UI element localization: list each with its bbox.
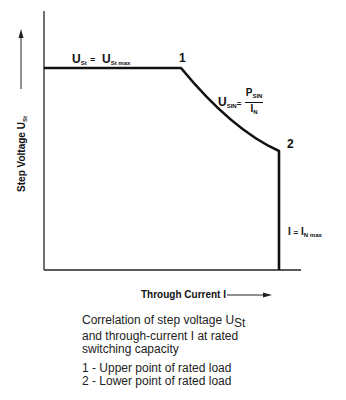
- y-axis-arrow-head: [19, 29, 24, 38]
- x-axis-label: Through Current I: [141, 289, 226, 300]
- caption-line-1-sub: St: [234, 316, 245, 330]
- caption-line-1-text: Correlation of step voltage U: [82, 313, 234, 327]
- eq-sign: =: [237, 99, 242, 108]
- eq-lhs-sub: SIN: [227, 103, 237, 109]
- eq-lhs-sub: St: [81, 60, 87, 66]
- eq-lhs: U: [72, 52, 81, 66]
- fraction-numerator: PSIN: [245, 87, 264, 103]
- den-sub: N: [253, 109, 257, 115]
- eq-lhs: I: [288, 226, 291, 237]
- fraction: PSIN IN: [245, 87, 264, 118]
- eq-lhs: U: [218, 95, 227, 109]
- legend-item: 2 - Lower point of rated load: [82, 375, 231, 388]
- eq-rhs-sub: N max: [304, 232, 322, 238]
- caption-line-1: Correlation of step voltage USt: [82, 314, 245, 330]
- eq-rhs-sub: St max: [111, 60, 131, 66]
- y-axis-label: Step Voltage USt: [16, 109, 28, 199]
- curve-segment-equation: USIN= PSIN IN: [218, 87, 263, 118]
- point-1-label: 1: [179, 51, 186, 65]
- eq-sign: =: [294, 228, 299, 237]
- eq-sign: =: [90, 55, 95, 65]
- fraction-denominator: IN: [245, 103, 264, 118]
- legend: 1 - Upper point of rated load 2 - Lower …: [82, 362, 231, 388]
- y-axis-label-text: Step Voltage U: [16, 122, 27, 192]
- flat-segment-equation: USt = USt max: [72, 52, 130, 66]
- eq-rhs: U: [102, 52, 111, 66]
- figure-caption: Correlation of step voltage USt and thro…: [82, 314, 245, 356]
- y-axis-label-subscript: St: [22, 116, 28, 122]
- point-2-label: 2: [287, 137, 294, 151]
- vertical-segment-equation: I = IN max: [288, 226, 322, 238]
- caption-line-3: switching capacity: [82, 343, 245, 356]
- x-axis-arrow-head: [263, 293, 272, 298]
- num-sub: SIN: [252, 93, 262, 99]
